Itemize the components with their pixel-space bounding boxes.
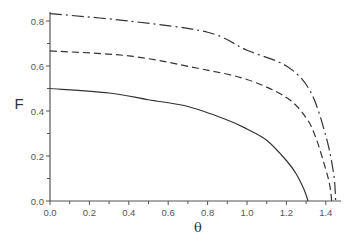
x-tick-label: 0.0 — [43, 207, 56, 218]
chart: 0.00.20.40.60.81.01.21.40.00.20.40.60.8 … — [0, 0, 358, 238]
x-tick-label: 1.2 — [280, 207, 293, 218]
x-tick-label: 1.0 — [240, 207, 253, 218]
x-tick-label: 0.4 — [122, 207, 135, 218]
y-tick-label: 0.4 — [31, 106, 44, 117]
ticks-layer: 0.00.20.40.60.81.01.21.40.00.20.40.60.8 — [31, 16, 333, 219]
x-tick-label: 0.2 — [83, 207, 96, 218]
x-axis-label: θ — [194, 220, 202, 235]
x-tick-label: 0.6 — [162, 207, 175, 218]
y-tick-label: 0.8 — [31, 16, 44, 27]
y-tick-label: 0.2 — [31, 151, 44, 162]
series-line-dashed — [50, 51, 332, 201]
y-tick-label: 0.6 — [31, 61, 44, 72]
x-tick-label: 0.8 — [201, 207, 214, 218]
y-tick-label: 0.0 — [31, 196, 44, 207]
y-axis-label: F — [14, 95, 23, 112]
series-layer — [50, 14, 336, 201]
x-tick-label: 1.4 — [319, 207, 332, 218]
series-line-solid — [50, 89, 308, 202]
